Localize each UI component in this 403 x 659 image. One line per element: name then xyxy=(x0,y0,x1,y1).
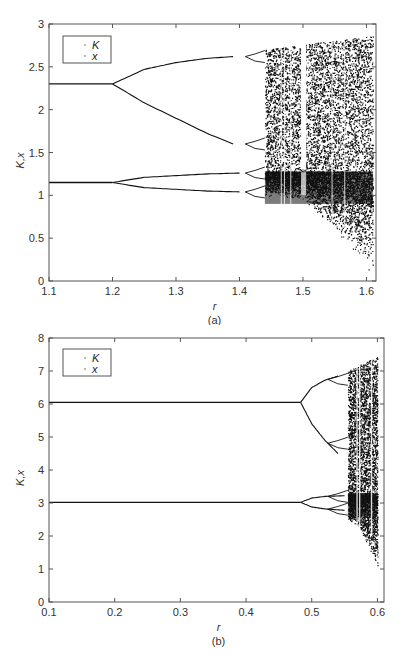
plot-area xyxy=(49,37,374,271)
legend: Kx xyxy=(63,349,111,376)
legend-entry-x: x xyxy=(91,363,98,375)
y-tick-label: 0.5 xyxy=(29,232,44,244)
legend-marker-icon xyxy=(84,55,86,57)
x-tick-label: 1.5 xyxy=(295,285,310,297)
y-axis-label: K,x xyxy=(14,152,26,168)
x-tick-label: 1.4 xyxy=(232,285,247,297)
x-tick-label: 0.6 xyxy=(370,606,385,618)
legend-entry-x: x xyxy=(91,50,98,62)
x-tick-label: 1.6 xyxy=(359,285,374,297)
y-tick-label: 6 xyxy=(38,398,44,410)
y-tick-label: 0 xyxy=(38,275,44,287)
x-tick-label: 0.3 xyxy=(173,606,188,618)
y-tick-label: 2.5 xyxy=(29,61,44,73)
series-k xyxy=(49,357,379,506)
legend-marker-icon xyxy=(84,44,86,46)
x-tick-label: 0.4 xyxy=(238,606,253,618)
chart-panel-b: 0.10.20.30.40.50.6012345678rK,x(b)Kx xyxy=(0,325,403,659)
y-tick-label: 3 xyxy=(38,18,44,30)
series-x xyxy=(49,167,374,270)
x-tick-label: 0.2 xyxy=(107,606,122,618)
y-tick-label: 1 xyxy=(38,189,44,201)
x-tick-label: 0.5 xyxy=(304,606,319,618)
y-tick-label: 2 xyxy=(38,530,44,542)
chart-panel-a: 1.11.21.31.41.51.600.511.522.53rK,x(a)Kx xyxy=(0,0,403,325)
x-tick-label: 1.2 xyxy=(105,285,120,297)
plot-area xyxy=(49,357,379,566)
legend-marker-icon xyxy=(84,357,86,359)
y-tick-label: 2 xyxy=(38,104,44,116)
y-axis-label: K,x xyxy=(14,470,26,486)
x-axis-label: r xyxy=(217,621,222,633)
panel-caption: (a) xyxy=(208,314,221,325)
bifurcation-chart-a: 1.11.21.31.41.51.600.511.522.53rK,x(a)Kx xyxy=(0,0,403,325)
y-tick-label: 1 xyxy=(38,563,44,575)
y-tick-label: 8 xyxy=(38,332,44,344)
x-axis-label: r xyxy=(213,300,218,312)
y-tick-label: 4 xyxy=(38,464,44,476)
y-tick-label: 1.5 xyxy=(29,147,44,159)
bifurcation-chart-b: 0.10.20.30.40.50.6012345678rK,x(b)Kx xyxy=(0,325,403,659)
series-x xyxy=(49,490,379,566)
x-tick-label: 1.3 xyxy=(168,285,183,297)
y-tick-label: 5 xyxy=(38,431,44,443)
y-tick-label: 3 xyxy=(38,497,44,509)
panel-caption: (b) xyxy=(212,635,225,647)
y-tick-label: 0 xyxy=(38,596,44,608)
y-tick-label: 7 xyxy=(38,365,44,377)
legend-marker-icon xyxy=(84,368,86,370)
legend: Kx xyxy=(63,36,111,63)
